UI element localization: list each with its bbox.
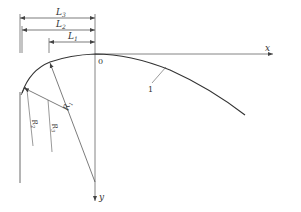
radius-r2-line [27,90,33,146]
curve-leader-line [152,67,166,83]
curve-label: 1 [148,85,153,94]
dimension-l1-label: L1 [67,31,78,42]
x-axis: x [95,43,273,54]
y-axis: y [95,14,105,202]
diagram-figure: y x 0 L3 L2 L1 1 R1 R2 R3 [0,0,301,212]
radius-r3-label: R3 [49,122,60,133]
y-axis-label: y [98,192,105,202]
radius-r1-label: R1 [61,100,74,113]
corner-mark [21,87,28,95]
dimension-l1: L1 [49,31,95,42]
dimension-l2: L2 [22,19,95,30]
dimension-l3-label: L3 [55,7,66,18]
radius-r-line [24,88,68,110]
dimension-l2-label: L2 [55,19,66,30]
dimension-l3: L3 [20,7,95,18]
x-axis-label: x [265,43,270,53]
curve-1 [22,54,245,115]
origin-label: 0 [98,57,103,66]
